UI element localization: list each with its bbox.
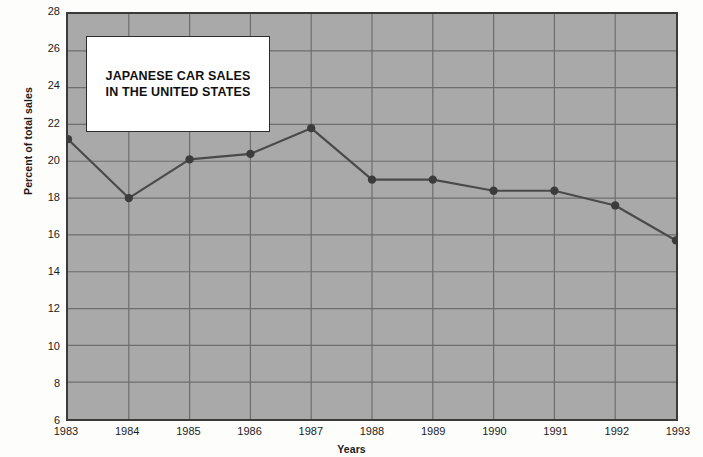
x-tick-label: 1990 — [459, 426, 529, 437]
x-tick-label: 1983 — [31, 426, 101, 437]
x-tick-label: 1984 — [92, 426, 162, 437]
chart-title: JAPANESE CAR SALES IN THE UNITED STATES — [106, 68, 251, 101]
x-tick-label: 1992 — [582, 426, 652, 437]
x-tick-label: 1985 — [153, 426, 223, 437]
x-tick-label: 1986 — [215, 426, 285, 437]
chart-figure: Percent of total sales 68101214161820222… — [0, 0, 703, 457]
x-tick-label: 1989 — [398, 426, 468, 437]
x-tick-label: 1991 — [521, 426, 591, 437]
chart-title-line-2: IN THE UNITED STATES — [106, 84, 251, 101]
x-tick-label: 1988 — [337, 426, 407, 437]
x-tick-label: 1987 — [276, 426, 346, 437]
x-tick-label: 1993 — [643, 426, 703, 437]
chart-title-callout-box: JAPANESE CAR SALES IN THE UNITED STATES — [86, 36, 270, 132]
x-axis-label: Years — [0, 443, 703, 455]
chart-title-line-1: JAPANESE CAR SALES — [106, 68, 251, 85]
